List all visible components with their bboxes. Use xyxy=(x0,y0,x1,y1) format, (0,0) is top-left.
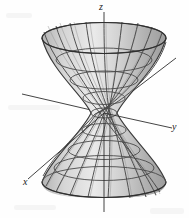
z-axis-label: z xyxy=(99,2,103,12)
hyperboloid-surface-svg xyxy=(0,0,189,218)
x-axis-label: x xyxy=(23,177,27,187)
y-axis-label: y xyxy=(172,122,176,132)
hyperboloid-figure: z y x xyxy=(0,0,189,218)
